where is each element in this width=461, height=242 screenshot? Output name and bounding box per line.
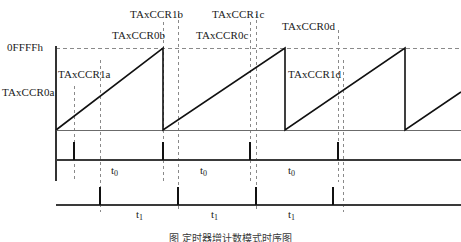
t1-interval-3-sub: 1 xyxy=(291,213,295,222)
label-taxccr0d: TAxCCR0d xyxy=(282,20,335,32)
t0-interval-3-sub: 0 xyxy=(291,169,295,178)
t0-pulse-train xyxy=(56,142,461,160)
t1-interval-1: t1 xyxy=(136,208,143,220)
label-taxccr1a: TAxCCR1a xyxy=(58,68,110,80)
t0-interval-2-sub: 0 xyxy=(203,169,207,178)
t1-interval-2-sub: 1 xyxy=(214,213,218,222)
label-taxccr0b: TAxCCR0b xyxy=(112,29,165,41)
t1-interval-2: t1 xyxy=(211,208,218,220)
level-label-0ffffh: 0FFFFh xyxy=(7,41,43,53)
label-taxccr1d: TAxCCR1d xyxy=(288,68,341,80)
label-taxccr0c: TAxCCR0c xyxy=(196,29,248,41)
t1-interval-3: t1 xyxy=(288,208,295,220)
t1-interval-1-sub: 1 xyxy=(139,213,143,222)
label-taxccr1b: TAxCCR1b xyxy=(130,8,183,20)
label-taxccr1c: TAxCCR1c xyxy=(212,8,264,20)
t0-interval-3: t0 xyxy=(288,164,295,176)
timer-count-waveform xyxy=(56,48,461,130)
t0-interval-1-sub: 0 xyxy=(114,169,118,178)
t0-interval-2: t0 xyxy=(200,164,207,176)
marker-dashed-lines xyxy=(74,14,343,212)
figure-caption: 图 定时器增计数模式时序图 xyxy=(0,230,461,242)
t0-interval-1: t0 xyxy=(111,164,118,176)
t1-pulse-train xyxy=(56,187,461,205)
timing-diagram-figure: 0FFFFh TAxCCR0a TAxCCR1a TAxCCR0b TAxCCR… xyxy=(0,0,461,242)
label-taxccr0a: TAxCCR0a xyxy=(2,86,54,98)
